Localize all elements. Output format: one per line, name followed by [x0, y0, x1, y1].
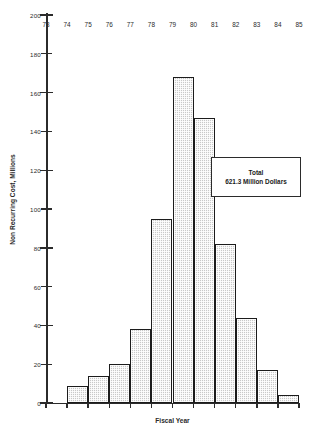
y-tick-label-100: 100: [30, 206, 41, 213]
x-tick-85: [298, 403, 299, 408]
x-tick-77: [130, 403, 131, 408]
y-tick-140: [41, 131, 52, 132]
bar-fy76: [109, 364, 130, 403]
bar-fy82: [236, 318, 257, 403]
x-tick-label-83: 83: [253, 21, 260, 28]
x-tick-label-73: 73: [42, 21, 49, 28]
bar-fy84: [278, 395, 299, 403]
x-tick-label-79: 79: [169, 21, 176, 28]
y-tick-label-200: 200: [30, 12, 41, 19]
y-tick-80: [40, 247, 53, 249]
y-tick-label-60: 60: [34, 283, 41, 290]
bar-fy81: [215, 244, 236, 403]
x-tick-81: [214, 403, 215, 408]
y-tick-label-20: 20: [34, 361, 41, 368]
x-tick-78: [151, 403, 152, 408]
x-tick-79: [172, 403, 173, 408]
bar-fy77: [130, 329, 151, 403]
bar-fy79: [173, 77, 194, 403]
x-tick-83: [256, 403, 257, 408]
y-tick-label-0: 0: [37, 400, 41, 407]
bar-fy75: [88, 376, 109, 403]
x-axis-title: Fiscal Year: [46, 417, 299, 424]
y-tick-160: [40, 92, 53, 94]
x-tick-74: [66, 403, 67, 408]
y-tick-100: [41, 208, 52, 209]
x-tick-80: [193, 403, 194, 408]
x-tick-label-76: 76: [106, 21, 113, 28]
plot-area: 020406080100120140160180200 737475767778…: [46, 15, 299, 403]
x-tick-label-78: 78: [148, 21, 155, 28]
x-tick-label-82: 82: [232, 21, 239, 28]
x-tick-84: [277, 403, 278, 408]
y-tick-label-140: 140: [30, 128, 41, 135]
x-tick-82: [235, 403, 236, 408]
x-tick-label-75: 75: [85, 21, 92, 28]
x-tick-label-74: 74: [64, 21, 71, 28]
bar-fy74: [67, 386, 88, 403]
x-tick-label-80: 80: [190, 21, 197, 28]
annotation-label: Total: [249, 169, 264, 176]
histogram-chart: 020406080100120140160180200 737475767778…: [0, 0, 311, 432]
y-tick-200: [40, 14, 53, 16]
x-tick-75: [87, 403, 88, 408]
bar-series: [46, 15, 299, 403]
y-tick-label-40: 40: [34, 322, 41, 329]
x-tick-label-81: 81: [211, 21, 218, 28]
x-tick-label-77: 77: [127, 21, 134, 28]
x-tick-label-85: 85: [295, 21, 302, 28]
total-annotation-box: Total 621.3 Million Dollars: [211, 157, 301, 197]
bar-fy78: [151, 219, 172, 403]
y-tick-20: [41, 364, 52, 365]
y-tick-label-80: 80: [34, 244, 41, 251]
x-tick-76: [109, 403, 110, 408]
y-tick-180: [41, 53, 52, 54]
clipped-caption-bleed: [0, 0, 311, 7]
y-tick-120: [40, 170, 53, 172]
y-tick-40: [40, 325, 53, 327]
annotation-value: 621.3 Million Dollars: [225, 178, 286, 185]
y-tick-60: [41, 286, 52, 287]
y-tick-label-160: 160: [30, 89, 41, 96]
bar-fy83: [257, 370, 278, 403]
y-tick-label-180: 180: [30, 50, 41, 57]
y-tick-label-120: 120: [30, 167, 41, 174]
y-axis-title: Non Recurring Cost, Millions: [9, 130, 16, 270]
x-tick-label-84: 84: [274, 21, 281, 28]
x-tick-73: [45, 403, 46, 408]
